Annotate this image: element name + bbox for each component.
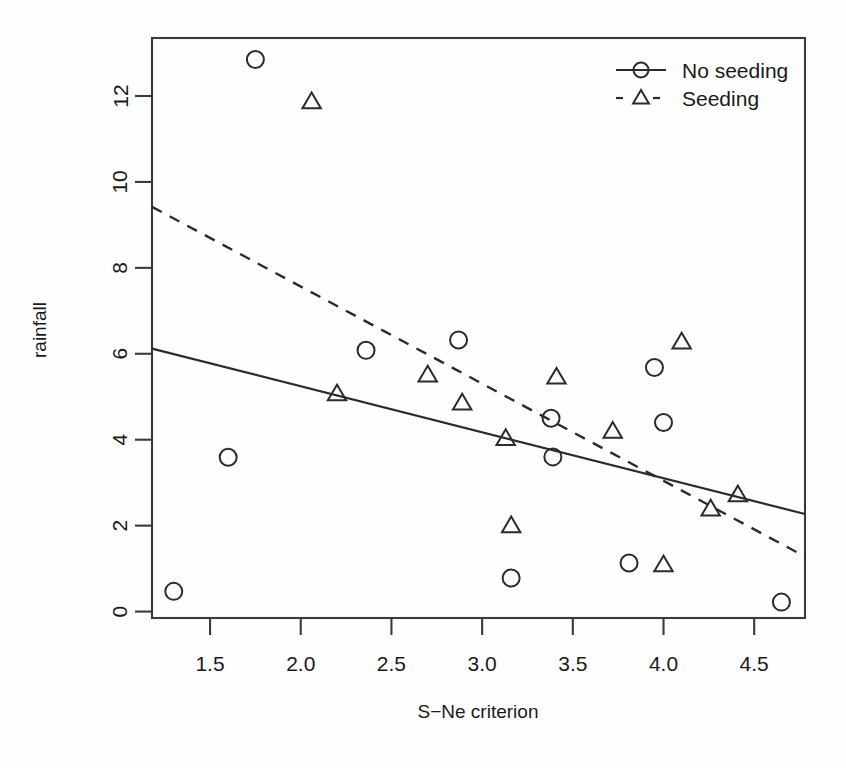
x-tick-label: 3.5 [558,652,587,675]
x-tick-label: 3.0 [468,652,497,675]
legend-marker-triangle [633,90,649,104]
plot-frame [152,38,805,618]
x-axis-tick-labels: 1.52.02.53.03.54.04.5 [195,652,768,675]
data-point-circle [450,332,467,349]
data-point-markers [165,51,790,611]
y-axis-title: rainfall [29,302,50,358]
legend-label: Seeding [682,87,759,110]
x-tick-label: 1.5 [195,652,224,675]
y-tick-label: 4 [109,434,132,446]
data-point-circle [358,342,375,359]
data-point-triangle [502,517,520,533]
y-tick-label: 8 [109,262,132,274]
data-point-triangle [654,556,672,572]
data-point-circle [503,570,520,587]
y-axis-tick-labels: 024681012 [109,84,132,617]
data-point-circle [165,583,182,600]
y-tick-label: 0 [109,606,132,618]
data-point-circle [247,51,264,68]
regression-line-circle [152,349,805,514]
y-tick-label: 6 [109,348,132,360]
data-point-triangle [419,366,437,382]
y-tick-label: 12 [109,84,132,107]
y-tick-label: 2 [109,520,132,532]
data-point-circle [655,414,672,431]
data-point-circle [220,449,237,466]
legend-label: No seeding [682,59,788,82]
data-point-triangle [453,394,471,410]
x-axis-ticks [210,618,754,635]
y-axis-ticks [135,96,152,612]
data-point-triangle [547,368,565,384]
data-point-circle [646,359,663,376]
data-point-triangle [604,422,622,438]
data-point-triangle [302,93,320,109]
data-point-circle [773,594,790,611]
x-axis-title: S−Ne criterion [418,701,539,722]
x-tick-label: 2.5 [377,652,406,675]
y-tick-label: 10 [109,170,132,193]
data-point-circle [621,555,638,572]
x-tick-label: 4.0 [649,652,678,675]
legend: No seedingSeeding [616,59,788,110]
scatter-plot: 1.52.02.53.03.54.04.5 024681012 No seedi… [0,0,846,768]
x-tick-label: 2.0 [286,652,315,675]
data-point-triangle [672,333,690,349]
chart-page: 1.52.02.53.03.54.04.5 024681012 No seedi… [0,0,846,768]
x-tick-label: 4.5 [740,652,769,675]
